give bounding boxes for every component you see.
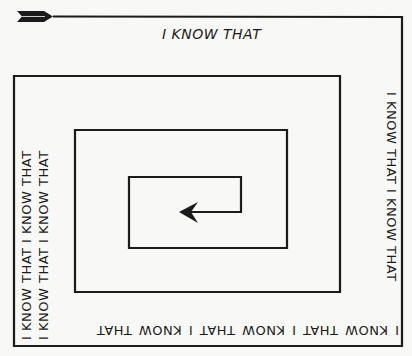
- top-label: I KNOW THAT: [162, 27, 261, 41]
- bottom-label: I KNOW THAT I KNOW THAT I KNOW THAT: [96, 324, 399, 337]
- spiral-diagram: I KNOW THAT I KNOW THAT I KNOW THAT I KN…: [0, 0, 412, 356]
- right-label: I KNOW THAT I KNOW THAT: [385, 92, 398, 282]
- left-label-outer: I KNOW THAT I KNOW THAT: [20, 150, 33, 340]
- spiral-path: [0, 0, 412, 356]
- left-label-inner: I KNOW THAT I KNOW THAT: [37, 150, 50, 340]
- arrow-fletching-icon: [17, 11, 53, 22]
